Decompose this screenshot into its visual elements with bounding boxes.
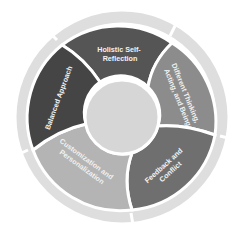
- cycle-diagram: Holistic Self- Reflection Different Thin…: [0, 0, 245, 236]
- label-holistic: Holistic Self- Reflection: [97, 45, 143, 63]
- center-circle: [85, 80, 159, 154]
